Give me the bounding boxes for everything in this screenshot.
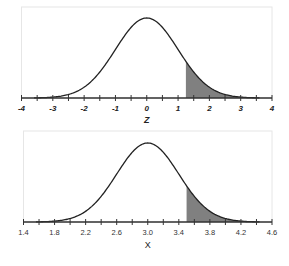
x-axis-title: X bbox=[145, 240, 151, 250]
tick-label: 2.6 bbox=[111, 228, 121, 237]
tick-label: -4 bbox=[18, 104, 26, 113]
tick-label: 1 bbox=[176, 104, 181, 113]
tick-label: 3.0 bbox=[143, 228, 153, 237]
shaded-tail-area bbox=[187, 186, 272, 222]
density-curve bbox=[36, 143, 260, 222]
x-distribution-chart: 1.41.82.22.63.03.43.84.24.6X bbox=[18, 131, 277, 250]
tick-label: -1 bbox=[112, 104, 120, 113]
x-axis-title: Z bbox=[143, 115, 150, 125]
chart-frame bbox=[22, 7, 273, 98]
tick-label: 3.8 bbox=[205, 228, 215, 237]
chart-frame bbox=[24, 131, 273, 222]
tick-label: -3 bbox=[49, 104, 57, 113]
tick-label: 4 bbox=[269, 104, 275, 113]
shaded-tail-area bbox=[186, 61, 272, 98]
z-distribution-chart: -4-3-2-101234Z bbox=[18, 7, 275, 125]
tick-label: 1.4 bbox=[18, 228, 28, 237]
tick-label: 2 bbox=[206, 104, 212, 113]
tick-label: -2 bbox=[81, 104, 89, 113]
tick-label: 3 bbox=[238, 104, 243, 113]
tick-label: 2.2 bbox=[80, 228, 90, 237]
tick-label: 3.4 bbox=[174, 228, 184, 237]
normal-distribution-figure: -4-3-2-101234Z 1.41.82.22.63.03.43.84.24… bbox=[0, 0, 289, 266]
tick-label: 1.8 bbox=[49, 228, 59, 237]
tick-label: 0 bbox=[145, 104, 150, 113]
tick-label: 4.2 bbox=[236, 228, 246, 237]
density-curve bbox=[34, 18, 259, 98]
tick-label: 4.6 bbox=[267, 228, 277, 237]
